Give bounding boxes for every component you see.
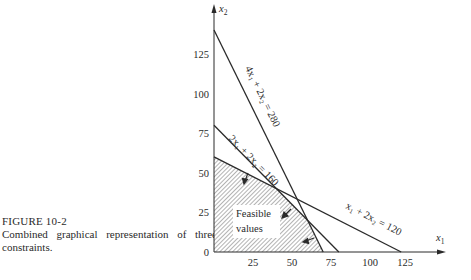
x-tick-75: 75	[326, 257, 337, 268]
x-tick-100: 100	[362, 257, 378, 268]
y-tick-50: 50	[199, 168, 210, 179]
x-axis-arrow-icon	[437, 250, 446, 255]
y-tick-125: 125	[193, 49, 209, 60]
feasible-label-line1: Feasible	[236, 208, 271, 219]
y-axis-arrow-icon	[212, 4, 217, 13]
constraint-label-3: x₁ + 2x₂ = 120	[344, 200, 403, 238]
y-tick-75: 75	[199, 128, 210, 139]
y-tick-0: 0	[204, 247, 209, 258]
x-axis-label: x1	[435, 232, 445, 246]
constraint-label-1: 4x₁ + 2x₂ = 280	[243, 64, 282, 128]
x-tick-50: 50	[287, 257, 298, 268]
y-tick-100: 100	[193, 89, 209, 100]
x-tick-125: 125	[397, 257, 413, 268]
y-tick-25: 25	[199, 207, 210, 218]
constraint-chart: Feasible values x2 x1 0 25 50 75 100 125…	[0, 0, 471, 280]
feasible-label-line2: values	[236, 223, 263, 234]
x-tick-25: 25	[248, 257, 259, 268]
y-axis-label: x2	[218, 3, 228, 17]
